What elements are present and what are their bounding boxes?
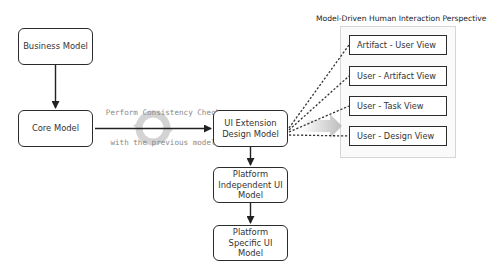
- node-label: UI Extension Design Model: [217, 118, 284, 139]
- node-business-model[interactable]: Business Model: [18, 28, 93, 65]
- block-arrow-icon: [300, 114, 342, 138]
- view-user-design[interactable]: User - Design View: [349, 126, 447, 146]
- view-label: User - Task View: [357, 101, 424, 111]
- node-platform-specific-ui-model[interactable]: Platform Specific UI Model: [213, 225, 288, 261]
- node-label: Core Model: [32, 123, 79, 134]
- edge-dashed-artifact-user: [289, 45, 349, 128]
- view-label: Artifact - User View: [357, 40, 436, 50]
- view-label: User - Artifact View: [357, 71, 436, 81]
- edge-dashed-user-design: [289, 135, 349, 136]
- diagram-canvas: Model-Driven Human Interaction Perspecti…: [0, 0, 496, 272]
- node-label: Business Model: [23, 41, 88, 52]
- view-user-task[interactable]: User - Task View: [349, 96, 447, 116]
- node-core-model[interactable]: Core Model: [18, 110, 93, 147]
- view-label: User - Design View: [357, 131, 434, 141]
- node-ui-extension-design-model[interactable]: UI Extension Design Model: [213, 110, 288, 147]
- view-artifact-user[interactable]: Artifact - User View: [349, 35, 447, 55]
- node-label: Platform Independent UI Model: [217, 169, 284, 201]
- node-label: Platform Specific UI Model: [217, 227, 284, 259]
- view-user-artifact[interactable]: User - Artifact View: [349, 66, 447, 86]
- node-platform-independent-ui-model[interactable]: Platform Independent UI Model: [213, 167, 288, 203]
